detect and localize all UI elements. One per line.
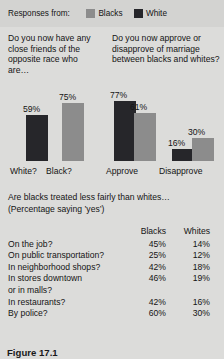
legend-swatch-blacks-icon bbox=[86, 9, 95, 18]
row-label: In stores downtown or in malls? bbox=[0, 273, 126, 296]
row-label: On the job? bbox=[0, 239, 126, 251]
panel-friends-question: Do you now have any close friends of the… bbox=[8, 33, 100, 75]
table-row: On public transportation? 25% 12% bbox=[0, 250, 224, 262]
legend-title: Responses from: bbox=[8, 9, 70, 18]
row-whites: 19% bbox=[166, 273, 224, 296]
column-header-whites: Whites bbox=[166, 226, 224, 239]
fairness-title: Are blacks treated less fairly than whit… bbox=[8, 192, 218, 203]
row-blacks: 60% bbox=[126, 308, 166, 320]
figure-container: Responses from: Blacks White Do you now … bbox=[0, 0, 224, 359]
row-blacks: 45% bbox=[126, 239, 166, 251]
axis-label-white: White? bbox=[10, 166, 37, 176]
fairness-table: Blacks Whites On the job? 45% 14% On pub… bbox=[0, 226, 224, 320]
panel-marriage-question: Do you now approve or disapprove of marr… bbox=[112, 33, 224, 65]
row-label: On public transportation? bbox=[0, 250, 126, 262]
row-whites: 18% bbox=[166, 262, 224, 274]
legend-bar: Responses from: Blacks White bbox=[0, 0, 224, 27]
table-row: In neighborhood shops? 42% 18% bbox=[0, 262, 224, 274]
charts-region: Do you now have any close friends of the… bbox=[0, 27, 224, 178]
fairness-table-body: On the job? 45% 14% On public transporta… bbox=[0, 239, 224, 320]
row-label-line2: or in malls? bbox=[8, 285, 126, 297]
axis-label-black: Black? bbox=[46, 166, 72, 176]
bar-friends-white bbox=[26, 115, 48, 161]
bar-approve-blacks bbox=[134, 113, 156, 161]
row-blacks: 42% bbox=[126, 297, 166, 309]
bar-value-approve-white: 77% bbox=[110, 90, 127, 100]
legend-entry-blacks: Blacks bbox=[86, 9, 123, 18]
row-blacks: 42% bbox=[126, 262, 166, 274]
bar-value-approve-blacks: 61% bbox=[130, 102, 147, 112]
bar-value-disapprove-blacks: 30% bbox=[188, 127, 205, 137]
legend-entry-white: White bbox=[134, 9, 167, 18]
row-blacks: 25% bbox=[126, 250, 166, 262]
column-header-item bbox=[0, 226, 126, 239]
legend-label-blacks: Blacks bbox=[98, 9, 122, 18]
legend-swatch-white-icon bbox=[134, 9, 143, 18]
row-label: In neighborhood shops? bbox=[0, 262, 126, 274]
legend-label-white: White bbox=[146, 9, 167, 18]
bar-disapprove-blacks bbox=[192, 138, 214, 161]
row-whites: 14% bbox=[166, 239, 224, 251]
bar-disapprove-white bbox=[172, 149, 194, 161]
column-header-blacks: Blacks bbox=[126, 226, 166, 239]
row-whites: 30% bbox=[166, 308, 224, 320]
row-whites: 12% bbox=[166, 250, 224, 262]
row-label-line1: In stores downtown bbox=[8, 273, 82, 283]
bar-friends-black bbox=[62, 103, 84, 162]
table-row: In stores downtown or in malls? 46% 19% bbox=[0, 273, 224, 296]
row-label: By police? bbox=[0, 308, 126, 320]
row-blacks: 46% bbox=[126, 273, 166, 296]
row-label: In restaurants? bbox=[0, 297, 126, 309]
figure-caption: Figure 17.1 bbox=[7, 347, 58, 358]
table-row: On the job? 45% 14% bbox=[0, 239, 224, 251]
bar-value-friends-black: 75% bbox=[59, 92, 76, 102]
panel-marriage-approval: Do you now approve or disapprove of marr… bbox=[106, 27, 224, 178]
bar-value-friends-white: 59% bbox=[23, 104, 40, 114]
table-row: In restaurants? 42% 16% bbox=[0, 297, 224, 309]
table-row: By police? 60% 30% bbox=[0, 308, 224, 320]
bar-value-disapprove-white: 16% bbox=[168, 138, 185, 148]
fairness-subtitle: (Percentage saying ’yes’) bbox=[8, 204, 105, 215]
axis-label-approve: Approve bbox=[106, 166, 138, 176]
axis-label-disapprove: Disapprove bbox=[159, 166, 202, 176]
table-header-row: Blacks Whites bbox=[0, 226, 224, 239]
row-whites: 16% bbox=[166, 297, 224, 309]
panel-close-friends: Do you now have any close friends of the… bbox=[0, 27, 106, 178]
